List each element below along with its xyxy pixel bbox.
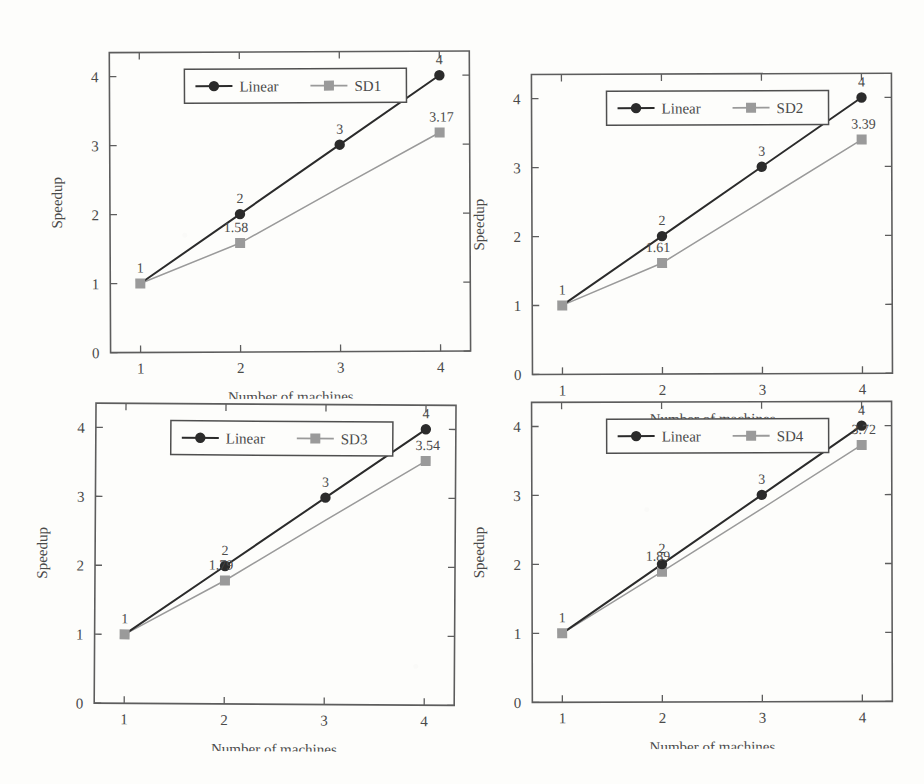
chart-panel-sd4: 012341234Number of machinesSpeedup12341.… [430,383,911,756]
data-label-sd4: 1.89 [646,549,671,564]
data-label-linear: 3 [758,144,765,159]
data-point-sd1 [235,238,245,248]
plot-area-sd2: 012341234Number of machinesSpeedup12341.… [429,55,900,422]
series-line-sd4 [562,445,862,633]
y-tick-label: 3 [513,488,521,504]
y-tick-label: 1 [514,626,522,642]
plot-area-sd1: 012341234Number of machinesSpeedup12341.… [7,33,479,400]
chart-panel-sd2: 012341234Number of machinesSpeedup12341.… [429,55,910,422]
y-tick-label: 4 [513,419,521,435]
x-tick-label: 2 [659,710,667,726]
y-tick-label: 2 [513,229,521,245]
legend: LinearSD3 [171,421,393,456]
chart-panel-sd1: 012341234Number of machinesSpeedup12341.… [7,33,479,400]
x-tick-label: 2 [220,712,228,728]
y-axis-title: Speedup [49,177,65,229]
x-tick-label: 4 [420,713,428,729]
data-label-linear: 4 [858,403,865,418]
chart-panel-sd3: 012341234Number of machinesSpeedup12341.… [0,385,474,758]
x-tick-label: 3 [759,710,767,726]
data-label-linear: 4 [422,406,429,421]
data-point-linear [757,490,767,500]
y-tick-label: 0 [76,696,84,712]
data-point-sd2 [857,135,867,145]
y-tick-label: 1 [76,627,84,643]
y-tick-label: 4 [513,91,521,107]
data-point-sd3 [220,575,230,585]
y-tick-label: 3 [513,160,521,176]
legend-label-linear: Linear [226,430,265,446]
data-point-sd4 [557,628,567,638]
legend-marker-linear [631,103,641,113]
y-axis-title: Speedup [34,527,50,579]
x-tick-label: 1 [120,711,128,727]
data-point-linear [320,492,330,502]
legend-label-sd3: SD3 [341,431,368,447]
legend: LinearSD1 [184,68,406,103]
data-label-linear: 3 [322,475,329,490]
legend-label-linear: Linear [662,100,701,116]
legend-label-sd4: SD4 [777,428,804,444]
data-point-linear [757,162,767,172]
y-tick-label: 3 [91,138,99,154]
figure-page: 012341234Number of machinesSpeedup12341.… [0,0,924,784]
y-tick-label: 4 [77,420,85,436]
data-point-sd2 [557,300,567,310]
series-line-linear [562,426,863,634]
series-line-linear [125,427,426,636]
data-label-sd2: 3.39 [851,116,876,131]
data-label-linear: 4 [858,74,865,89]
series-line-linear [562,97,863,305]
data-label-sd4: 3.72 [851,422,876,437]
data-label-linear: 3 [758,472,765,487]
data-label-linear: 2 [658,213,665,228]
y-tick-label: 2 [91,207,99,223]
x-tick-label: 3 [320,713,328,729]
x-tick-label: 4 [859,709,867,725]
data-label-sd1: 1.58 [224,220,249,235]
data-label-linear: 2 [222,543,229,558]
y-tick-label: 1 [92,276,100,292]
legend-label-linear: Linear [239,78,278,94]
x-tick-label: 1 [559,710,567,726]
x-axis-title: Number of machines [650,739,776,750]
data-label-linear: 3 [336,122,343,137]
series-line-sd1 [140,133,441,284]
data-label-sd3: 1.79 [209,557,234,572]
legend: LinearSD2 [606,90,828,125]
data-point-sd1 [135,278,145,288]
x-tick-label: 1 [137,360,145,376]
y-axis-title: Speedup [471,527,487,579]
x-axis-title: Number of machines [211,741,337,753]
data-label-linear: 2 [236,191,243,206]
x-tick-label: 3 [337,360,345,376]
legend-marker-sd4 [746,431,756,441]
legend-label-linear: Linear [662,428,701,444]
legend: LinearSD4 [607,419,829,454]
data-point-sd3 [120,629,130,639]
y-tick-label: 0 [514,367,522,383]
x-tick-label: 2 [237,360,245,376]
data-label-sd2: 1.61 [646,240,671,255]
data-label-linear: 1 [559,282,566,297]
data-point-sd2 [657,258,667,268]
series-line-sd3 [125,459,426,636]
data-label-linear: 1 [121,611,128,626]
y-tick-label: 4 [91,69,99,85]
legend-marker-linear [209,81,219,91]
legend-label-sd2: SD2 [777,100,804,116]
plot-area-sd4: 012341234Number of machinesSpeedup12341.… [430,383,901,749]
legend-marker-sd1 [324,81,334,91]
data-label-linear: 1 [137,260,144,275]
legend-marker-linear [195,433,205,443]
series-line-sd2 [562,140,863,306]
y-tick-label: 2 [76,558,84,574]
data-point-sd4 [857,440,867,450]
y-axis-title: Speedup [471,199,487,251]
plot-area-sd3: 012341234Number of machinesSpeedup12341.… [0,385,464,753]
legend-label-sd1: SD1 [354,78,381,94]
data-point-linear [334,139,344,149]
legend-marker-linear [631,431,641,441]
series-line-linear [139,75,440,283]
y-tick-label: 0 [514,695,522,711]
